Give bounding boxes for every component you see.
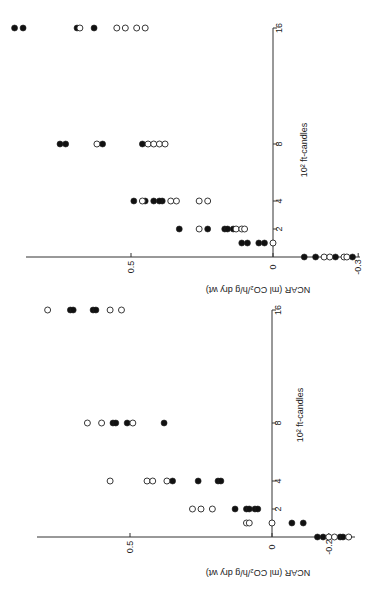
open-data-point [242,226,248,232]
light-tick-label: 16 [273,305,283,315]
top-ticks: 168420.50-0.3 [126,23,363,275]
open-data-point [99,420,105,426]
filled-data-point [289,520,295,526]
ncar-tick-label: 0 [267,544,277,549]
open-data-point [134,25,140,31]
open-data-point [122,25,128,31]
light-tick-label: 16 [274,23,284,33]
filled-data-point [195,478,201,484]
open-data-point [205,198,211,204]
filled-data-point [131,198,137,204]
filled-data-point [320,534,326,540]
open-data-point [118,307,124,313]
bottom-xlabel: 10² ft-candles [295,387,305,442]
filled-data-point [239,240,245,246]
open-data-point [269,520,275,526]
filled-data-point [255,506,261,512]
open-data-point [189,506,195,512]
filled-data-point [261,240,267,246]
bottom-data-points [45,307,352,540]
open-data-point [114,25,120,31]
ncar-tick-label: 0.5 [126,261,136,274]
filled-data-point [246,506,252,512]
open-data-point [151,141,157,147]
open-data-point [156,141,162,147]
light-tick-label: 8 [273,420,283,425]
filled-data-point [170,478,176,484]
filled-data-point [100,141,106,147]
open-data-point [209,506,215,512]
open-data-point [107,478,113,484]
filled-data-point [225,226,231,232]
filled-data-point [151,198,157,204]
filled-data-point [340,534,346,540]
filled-data-point [20,25,26,31]
bottom-ylabel: NCAR (ml CO₂/h/g dry wt) [206,568,311,578]
filled-data-point [232,506,238,512]
open-data-point [331,534,337,540]
open-data-point [246,520,252,526]
bottom-panel: 168420.50-0.2 10² ft-candles NCAR (ml CO… [37,305,355,578]
filled-data-point [301,254,307,260]
open-data-point [162,141,168,147]
light-tick-label: 4 [273,478,283,483]
filled-data-point [70,307,76,313]
filled-data-point [124,420,130,426]
open-data-point [173,198,179,204]
ncar-tick-label: -0.2 [324,539,334,555]
ncar-tick-label: 0 [268,264,278,269]
top-panel: 168420.50-0.3 10² ft-candles NCAR (ml CO… [12,23,364,295]
filled-data-point [161,420,167,426]
ncar-tick-label: 0.5 [125,541,135,554]
open-data-point [198,506,204,512]
open-data-point [130,420,136,426]
light-tick-label: 8 [274,141,284,146]
light-tick-label: 4 [274,198,284,203]
open-data-point [107,307,113,313]
filled-data-point [57,141,63,147]
filled-data-point [63,141,69,147]
open-data-point [321,254,327,260]
open-data-point [196,198,202,204]
open-data-point [327,254,333,260]
top-xlabel: 10² ft-candles [299,122,309,177]
open-data-point [270,240,276,246]
filled-data-point [300,520,306,526]
filled-data-point [256,240,262,246]
filled-data-point [218,478,224,484]
open-data-point [145,141,151,147]
filled-data-point [350,254,356,260]
filled-data-point [91,25,97,31]
open-data-point [94,141,100,147]
filled-data-point [332,254,338,260]
light-tick-label: 2 [274,226,284,231]
filled-data-point [205,226,211,232]
open-data-point [164,478,170,484]
filled-data-point [176,226,182,232]
filled-data-point [314,534,320,540]
ncar-light-response-figure: 168420.50-0.3 10² ft-candles NCAR (ml CO… [0,0,387,593]
open-data-point [168,198,174,204]
open-data-point [142,25,148,31]
top-ylabel: NCAR (ml CO₂/h/g dry wt) [206,285,311,295]
open-data-point [144,478,150,484]
open-data-point [344,254,350,260]
filled-data-point [113,420,119,426]
filled-data-point [12,25,18,31]
open-data-point [45,307,51,313]
open-data-point [326,534,332,540]
filled-data-point [313,254,319,260]
open-data-point [196,226,202,232]
open-data-point [139,198,145,204]
open-data-point [77,25,83,31]
filled-data-point [156,198,162,204]
open-data-point [233,226,239,232]
filled-data-point [139,141,145,147]
ncar-tick-label: -0.3 [353,259,363,275]
open-data-point [150,478,156,484]
open-data-point [346,534,352,540]
light-tick-label: 2 [273,506,283,511]
open-data-point [84,420,90,426]
filled-data-point [244,240,250,246]
filled-data-point [93,307,99,313]
